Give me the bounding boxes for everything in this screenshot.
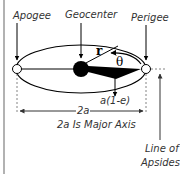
line-of-apsides-label-1: Line of [145,143,180,154]
theta-label: θ [116,55,123,69]
apogee-label: Apogee [12,10,51,21]
radius-label: r [96,44,103,58]
major-axis-caption: 2a Is Major Axis [57,119,136,130]
apogee-point [13,65,22,74]
geocenter-label: Geocenter [65,9,118,20]
perigee-label: Perigee [131,12,169,23]
earth-geocenter [73,61,89,77]
major-axis-short-label: 2a [77,105,90,116]
perigee-point [142,65,151,74]
line-of-apsides-label-2: Apsides [140,157,180,168]
orbit-diagram: Apogee Geocenter Perigee r θ 2a a(1-e) 2… [0,0,180,174]
perigee-distance-label: a(1-e) [100,95,130,106]
